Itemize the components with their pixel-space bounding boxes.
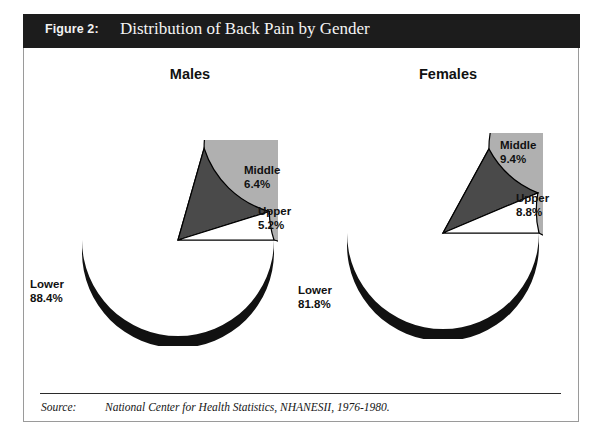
source-label: Source:: [41, 401, 76, 413]
pie-females-label-upper: Upper 8.8%: [516, 192, 549, 219]
pie-males-label-middle-pct: 6.4%: [244, 178, 280, 192]
pie-males-label-middle: Middle 6.4%: [244, 164, 280, 191]
pie-females-label-lower-name: Lower: [298, 284, 332, 296]
pie-males-shadow: [82, 240, 274, 346]
pie-males-label-lower-pct: 88.4%: [30, 292, 64, 306]
pie-males-label-lower-name: Lower: [30, 278, 64, 290]
figure-title-bar: Figure 2: Distribution of Back Pain by G…: [23, 14, 580, 48]
pie-males-label-upper-pct: 5.2%: [258, 219, 291, 233]
pie-females-label-upper-pct: 8.8%: [516, 206, 549, 220]
source-row: Source: National Center for Health Stati…: [41, 401, 561, 417]
figure-container: Figure 2: Distribution of Back Pain by G…: [0, 0, 603, 436]
panel-heading-males: Males: [120, 66, 260, 82]
pie-females-label-upper-name: Upper: [516, 192, 549, 204]
pie-males-label-middle-name: Middle: [244, 164, 280, 176]
source-text: National Center for Health Statistics, N…: [105, 401, 390, 413]
source-divider: [40, 393, 561, 394]
pie-females-label-middle-pct: 9.4%: [500, 153, 536, 167]
pie-females-label-middle: Middle 9.4%: [500, 139, 536, 166]
pie-males-label-upper: Upper 5.2%: [258, 205, 291, 232]
figure-number-label: Figure 2:: [45, 22, 99, 36]
panel-heading-females: Females: [378, 66, 518, 82]
pie-females-label-lower-pct: 81.8%: [298, 298, 332, 312]
pie-males-label-lower: Lower 88.4%: [30, 278, 64, 305]
figure-title-text: Distribution of Back Pain by Gender: [120, 19, 370, 39]
pie-males-label-upper-name: Upper: [258, 205, 291, 217]
pie-females-label-lower: Lower 81.8%: [298, 284, 332, 311]
pie-females-label-middle-name: Middle: [500, 139, 536, 151]
pie-females-shadow: [347, 233, 539, 339]
